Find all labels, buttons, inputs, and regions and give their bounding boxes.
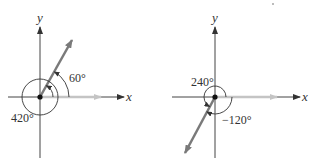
stray-dot: [272, 3, 274, 5]
angle-label-240: 240°: [191, 75, 214, 89]
origin-dot: [37, 94, 42, 99]
angle-arc-60: [55, 72, 70, 97]
y-axis-label: y: [35, 10, 43, 25]
diagram-left: y x 60° 420°: [8, 10, 132, 158]
angle-label-neg120: −120°: [222, 113, 252, 127]
angle-arc-420-inner: [47, 86, 54, 97]
coterminal-angles-figure: y x 60° 420° y x 240° −120°: [0, 0, 317, 166]
diagram-right: y x 240° −120°: [172, 3, 308, 158]
angle-label-60: 60°: [69, 71, 86, 85]
origin-dot: [212, 94, 217, 99]
x-axis-label: x: [125, 89, 132, 104]
y-axis-label: y: [210, 10, 218, 25]
terminal-ray: [185, 97, 215, 153]
x-axis-label: x: [301, 89, 308, 104]
angle-label-420: 420°: [11, 111, 34, 125]
